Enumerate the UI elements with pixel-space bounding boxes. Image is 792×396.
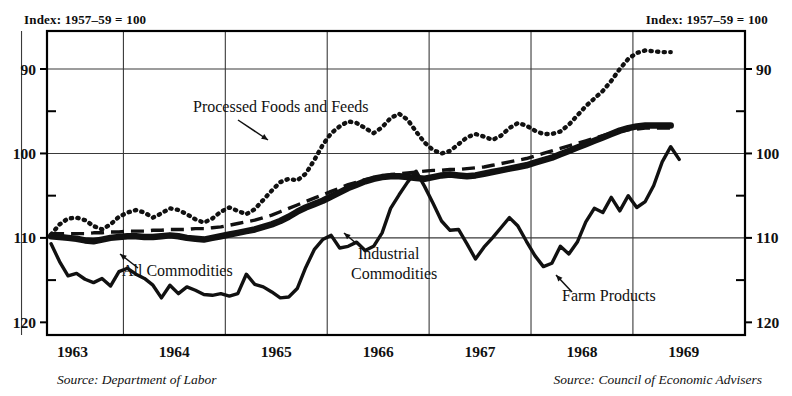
line-chart-plot: 1201101009012011010090196319641965196619… [0, 0, 792, 396]
annotation-leader-arrow [238, 120, 268, 140]
y-tick-label-left: 120 [13, 314, 37, 331]
index-note-left: Index: 1957–59 = 100 [24, 12, 146, 28]
x-tick-label: 1966 [363, 343, 394, 360]
y-tick-label-left: 100 [13, 145, 37, 162]
annotations-group: Processed Foods and FeedsAll Commodities… [120, 98, 656, 304]
source-note-left: Source: Department of Labor [57, 372, 217, 388]
y-tick-label-right: 110 [756, 229, 779, 246]
series-line-all-commodities [51, 126, 671, 242]
series-annotation-label: Farm Products [562, 287, 656, 304]
x-tick-label: 1963 [57, 343, 88, 360]
y-tick-label-right: 90 [756, 61, 772, 78]
x-tick-label: 1967 [465, 343, 496, 360]
series-annotation-label: Processed Foods and Feeds [193, 98, 369, 115]
source-note-right: Source: Council of Economic Advisers [554, 372, 762, 388]
x-tick-label: 1969 [668, 343, 699, 360]
y-tick-label-left: 110 [14, 229, 37, 246]
series-line-processed-foods-and-feeds [51, 50, 671, 234]
x-tick-label: 1968 [566, 343, 597, 360]
x-tick-label: 1965 [261, 343, 292, 360]
index-note-right: Index: 1957–59 = 100 [646, 12, 768, 28]
chart-figure: Index: 1957–59 = 100 Index: 1957–59 = 10… [0, 0, 792, 396]
y-tick-label-right: 120 [756, 314, 780, 331]
series-annotation-label: Commodities [351, 265, 437, 282]
y-tick-label-left: 90 [21, 61, 37, 78]
x-tick-label: 1964 [159, 343, 190, 360]
series-annotation-label: All Commodities [122, 262, 233, 279]
y-tick-label-right: 100 [756, 145, 780, 162]
series-annotation-label: Industrial [358, 245, 420, 262]
